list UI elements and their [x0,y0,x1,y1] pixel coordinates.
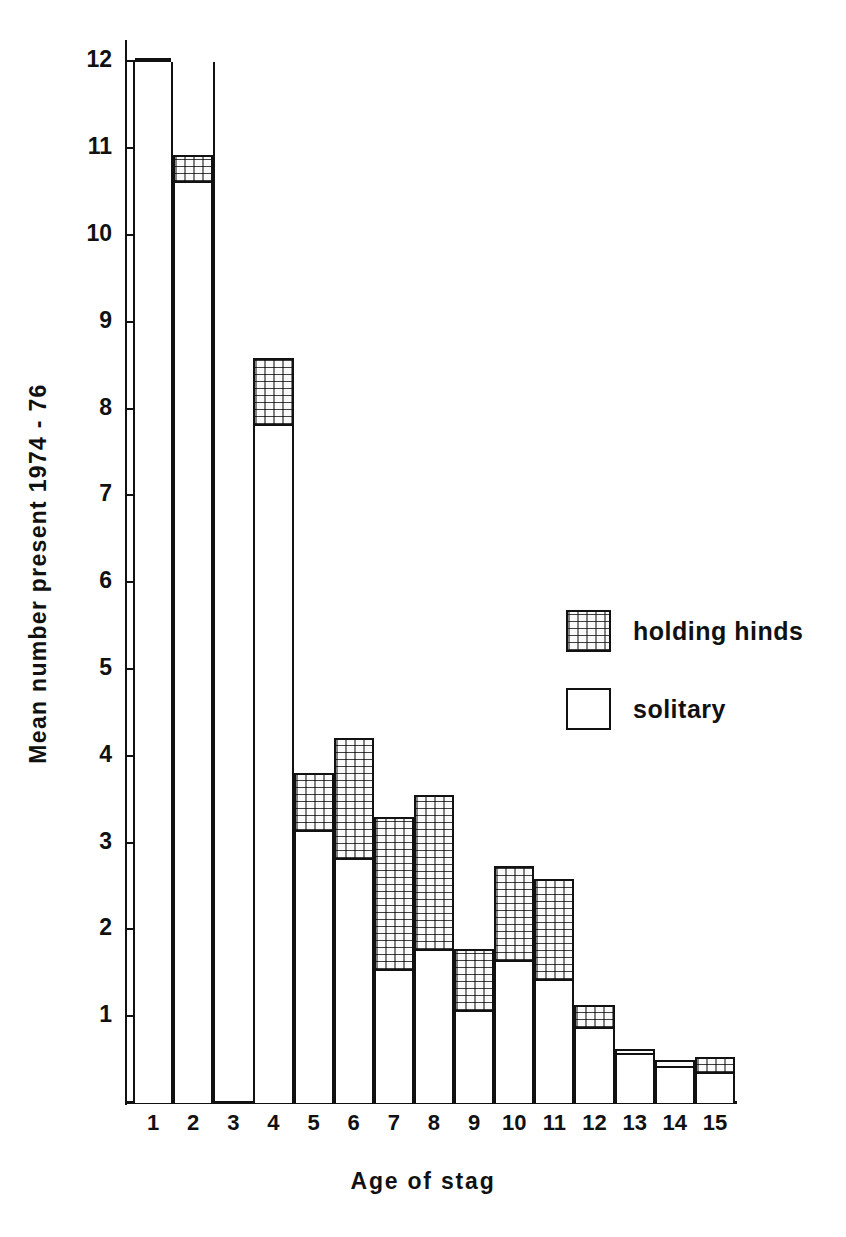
legend-swatch-holding-hinds [566,610,611,652]
bar-segment-solitary-8 [416,951,452,1103]
bar-segment-solitary-6 [336,860,372,1103]
bar-segment-solitary-14 [657,1068,693,1103]
bar-segment-solitary-4 [255,426,291,1103]
chart-figure: Mean number present 1974 - 76 1234567891… [0,0,846,1237]
bar-age-13[interactable] [615,1049,655,1103]
x-tick-label-5: 5 [294,1112,334,1134]
bar-segment-holding-hinds-4 [255,358,291,426]
y-tick-label-9: 9 [72,309,112,332]
x-tick-label-3: 3 [213,1112,253,1134]
bar-age-9[interactable] [454,949,494,1103]
y-tick-label-5: 5 [72,656,112,679]
x-tick-label-7: 7 [374,1112,414,1134]
bar-age-5[interactable] [294,773,334,1103]
bar-age-7[interactable] [374,817,414,1103]
bar-segment-holding-hinds-9 [456,949,492,1011]
y-axis-title: Mean number present 1974 - 76 [25,314,52,834]
chart-legend: holding hinds solitary [566,608,836,764]
legend-label-solitary: solitary [633,695,726,724]
y-tick-label-11: 11 [72,135,112,158]
bar-age-12[interactable] [574,1005,614,1103]
legend-swatch-solitary [566,688,611,730]
x-tick-label-9: 9 [454,1112,494,1134]
x-tick-label-12: 12 [574,1112,614,1134]
bar-segment-holding-hinds-5 [296,773,332,832]
bar-age-2[interactable] [173,155,213,1103]
bar-segment-solitary-5 [296,832,332,1103]
y-tick-label-12: 12 [72,48,112,71]
legend-label-holding-hinds: holding hinds [633,617,803,646]
bar-segment-solitary-15 [697,1074,733,1103]
x-axis-title: Age of stag [0,1168,846,1195]
bar-segment-solitary-13 [617,1055,653,1103]
bar-segment-holding-hinds-13 [617,1049,653,1055]
y-tick-label-2: 2 [72,916,112,939]
y-tick-label-6: 6 [72,569,112,592]
x-tick-label-11: 11 [534,1112,574,1134]
bar-age-10[interactable] [494,866,534,1103]
y-tick-label-8: 8 [72,396,112,419]
bar-segment-solitary-2 [175,183,211,1103]
y-tick-label-4: 4 [72,743,112,766]
bar-segment-holding-hinds-8 [416,795,452,951]
legend-item-holding-hinds: holding hinds [566,608,836,654]
y-tick-label-7: 7 [72,482,112,505]
x-tick-label-10: 10 [494,1112,534,1134]
bar-segment-solitary-11 [536,981,572,1103]
bar-segment-holding-hinds-15 [697,1057,733,1074]
bar-segment-holding-hinds-2 [175,155,211,183]
bar-age-1[interactable] [133,62,173,1103]
bar-segment-solitary-12 [576,1029,612,1103]
bar-segment-holding-hinds-11 [536,879,572,981]
x-tick-label-13: 13 [615,1112,655,1134]
x-tick-label-4: 4 [253,1112,293,1134]
bar-age-15[interactable] [695,1057,735,1103]
bar-segment-solitary-10 [496,962,532,1103]
bar-age-14[interactable] [655,1060,695,1103]
bar-segment-holding-hinds-1 [135,58,171,62]
y-tick-label-1: 1 [72,1003,112,1026]
bar-age-4[interactable] [253,358,293,1103]
bar-segment-holding-hinds-7 [376,817,412,972]
x-tick-label-8: 8 [414,1112,454,1134]
bar-segment-holding-hinds-14 [657,1060,693,1069]
y-tick-label-10: 10 [72,222,112,245]
bar-segment-holding-hinds-12 [576,1005,612,1029]
bar-segment-solitary-9 [456,1012,492,1103]
bar-age-8[interactable] [414,795,454,1103]
x-tick-label-1: 1 [133,1112,173,1134]
bar-age-6[interactable] [334,738,374,1103]
x-tick-label-2: 2 [173,1112,213,1134]
x-tick-label-14: 14 [655,1112,695,1134]
bar-segment-holding-hinds-10 [496,866,532,961]
bar-age-11[interactable] [534,879,574,1103]
bar-segment-solitary-7 [376,971,412,1103]
bar-age-3[interactable] [213,62,253,1103]
y-tick-label-3: 3 [72,830,112,853]
y-axis-line [125,40,127,1105]
x-tick-label-15: 15 [695,1112,735,1134]
legend-item-solitary: solitary [566,686,836,732]
x-tick-label-6: 6 [334,1112,374,1134]
bar-segment-holding-hinds-6 [336,738,372,860]
plot-area [133,0,735,1103]
bar-segment-solitary-1 [135,62,171,1103]
